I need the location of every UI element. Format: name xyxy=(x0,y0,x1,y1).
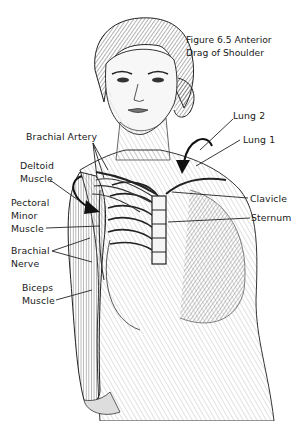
label-deltoid-line2: Muscle xyxy=(20,173,53,186)
illustration-drawing xyxy=(0,0,298,421)
label-pectoral-line1: Pectoral xyxy=(11,197,49,210)
label-clavicle: Clavicle xyxy=(250,193,287,206)
figure-caption-line2: Drag of Shoulder xyxy=(186,47,264,60)
torso xyxy=(80,150,274,421)
label-biceps-line1: Biceps xyxy=(22,282,53,295)
figure-caption-line1: Figure 6.5 Anterior xyxy=(186,34,272,47)
label-pectoral-line2: Minor xyxy=(11,210,38,223)
sternum-bone xyxy=(152,196,166,264)
label-pectoral-line3: Muscle xyxy=(11,223,44,236)
label-lung-1: Lung 1 xyxy=(243,134,275,147)
label-brachial-nerve-line2: Nerve xyxy=(11,258,39,271)
anatomy-figure: Figure 6.5 Anterior Drag of Shoulder Bra… xyxy=(0,0,298,421)
label-lung-2: Lung 2 xyxy=(233,110,265,123)
label-deltoid-line1: Deltoid xyxy=(20,160,54,173)
label-sternum: Sternum xyxy=(251,212,291,225)
label-brachial-artery: Brachial Artery xyxy=(26,131,97,144)
label-brachial-nerve-line1: Brachial xyxy=(11,245,50,258)
label-biceps-line2: Muscle xyxy=(22,295,55,308)
